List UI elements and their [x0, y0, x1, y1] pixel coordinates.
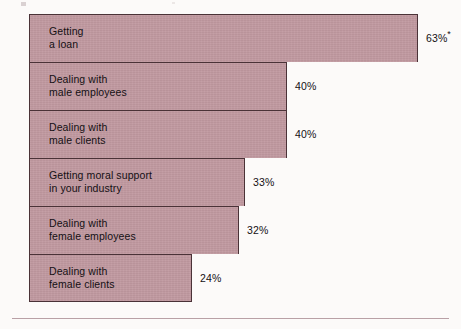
chart-page: Getting a loan 63%* Dealing with male em…	[0, 0, 461, 329]
bar-category-label: Dealing with female employees	[49, 217, 136, 243]
bar-category-label: Dealing with male clients	[49, 121, 107, 147]
bar-category-label: Getting a loan	[49, 25, 84, 51]
bar[interactable]	[29, 14, 418, 62]
horizontal-bar-chart: Getting a loan 63%* Dealing with male em…	[29, 14, 418, 302]
scan-speck	[21, 2, 26, 6]
bar-row: Dealing with female clients 24%	[29, 254, 418, 302]
bar-category-label: Dealing with female clients	[49, 265, 115, 291]
bar-value-label: 33%	[253, 176, 274, 189]
bar-row: Getting moral support in your industry 3…	[29, 158, 418, 206]
bar-value-text: 63%	[426, 32, 447, 44]
bar-value-label: 40%	[295, 80, 316, 93]
bar-category-label: Dealing with male employees	[49, 73, 127, 99]
footer-divider	[12, 318, 449, 319]
bar-row: Getting a loan 63%*	[29, 14, 418, 62]
bar-value-label: 32%	[247, 224, 268, 237]
bar-category-label: Getting moral support in your industry	[49, 169, 152, 195]
scan-speck	[172, 2, 175, 4]
bar-row: Dealing with female employees 32%	[29, 206, 418, 254]
bar-value-label: 63%*	[426, 32, 451, 45]
bar-row: Dealing with male clients 40%	[29, 110, 418, 158]
footnote-asterisk: *	[447, 29, 451, 39]
bar-row: Dealing with male employees 40%	[29, 62, 418, 110]
bar-value-label: 24%	[200, 272, 221, 285]
bar-value-label: 40%	[295, 128, 316, 141]
